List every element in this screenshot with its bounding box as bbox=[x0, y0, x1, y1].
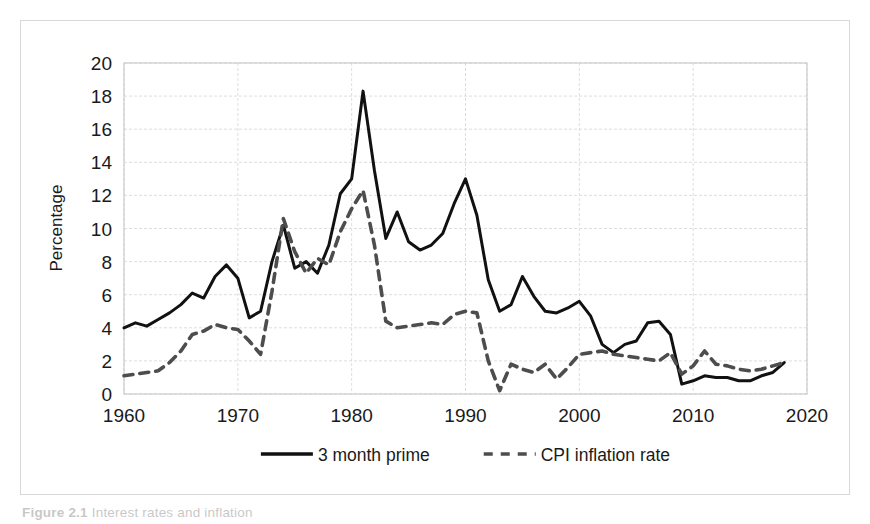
x-axis-tick-labels: 1960197019801990200020102020 bbox=[103, 405, 828, 426]
y-tick-label: 12 bbox=[91, 185, 112, 206]
y-tick-label: 10 bbox=[91, 219, 112, 240]
y-tick-label: 14 bbox=[91, 152, 113, 173]
y-tick-label: 18 bbox=[91, 86, 112, 107]
y-tick-label: 16 bbox=[91, 119, 112, 140]
x-tick-label: 1960 bbox=[103, 405, 145, 426]
legend-label-1: 3 month prime bbox=[318, 445, 430, 465]
line-chart: 02468101214161820 1960197019801990200020… bbox=[0, 0, 870, 524]
x-tick-label: 2010 bbox=[672, 405, 714, 426]
x-tick-label: 1990 bbox=[444, 405, 486, 426]
y-tick-label: 8 bbox=[101, 252, 112, 273]
legend-label-2: CPI inflation rate bbox=[541, 445, 670, 465]
y-axis-tick-labels: 02468101214161820 bbox=[91, 53, 113, 405]
figure-caption: Figure 2.1 Interest rates and inflation bbox=[22, 505, 522, 524]
y-axis-title: Percentage bbox=[47, 185, 66, 272]
x-tick-label: 1980 bbox=[331, 405, 373, 426]
chart-legend: 3 month primeCPI inflation rate bbox=[261, 445, 670, 465]
x-tick-label: 2000 bbox=[558, 405, 600, 426]
y-tick-label: 20 bbox=[91, 53, 112, 74]
figure-caption-label: Figure 2.1 bbox=[22, 505, 88, 520]
y-tick-label: 2 bbox=[101, 351, 112, 372]
x-tick-label: 2020 bbox=[786, 405, 828, 426]
y-tick-label: 6 bbox=[101, 285, 112, 306]
figure-caption-text: Interest rates and inflation bbox=[92, 505, 253, 520]
x-tick-label: 1970 bbox=[217, 405, 259, 426]
y-tick-label: 0 bbox=[101, 384, 112, 405]
y-tick-label: 4 bbox=[101, 318, 112, 339]
